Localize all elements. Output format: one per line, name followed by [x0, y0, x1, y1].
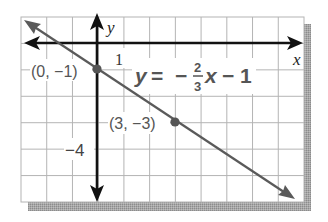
grid-background — [21, 17, 304, 202]
point-label-0-neg1: (0, −1) — [31, 63, 78, 80]
point-label-3-neg3: (3, −3) — [109, 115, 156, 132]
tick-label-y-neg4: −4 — [65, 141, 84, 160]
equation-tail: − 1 — [222, 64, 252, 87]
point-3-neg3 — [170, 117, 179, 126]
x-axis-label: x — [292, 50, 301, 69]
equation-minus: − — [175, 64, 187, 87]
equation-variable: x — [204, 64, 218, 87]
equation-equals: = — [151, 64, 163, 87]
point-0-neg1 — [92, 64, 101, 73]
equation-fraction-denominator: 3 — [194, 79, 201, 94]
tick-label-x-1: 1 — [115, 51, 123, 68]
equation-lhs: y — [134, 64, 148, 87]
y-axis-label: y — [105, 18, 115, 37]
equation-fraction-numerator: 2 — [194, 60, 201, 75]
graph-figure: y x 1 −4 (0, −1) (3, −3) y = − 2 3 x − 1 — [0, 0, 328, 222]
